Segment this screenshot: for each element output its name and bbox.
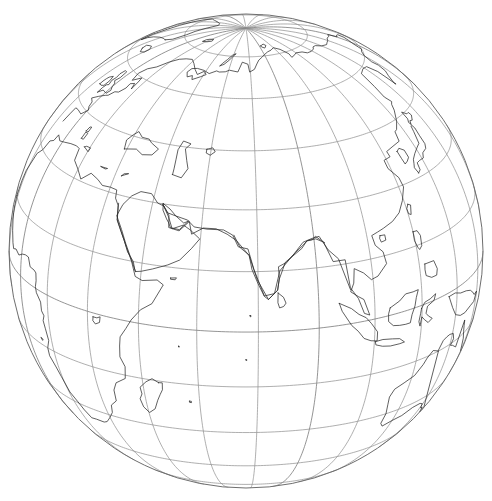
coastline-chagos	[246, 360, 247, 361]
globe-map[interactable]	[0, 0, 492, 501]
globe-figure	[0, 0, 492, 501]
coastline-seychelles	[179, 346, 180, 347]
